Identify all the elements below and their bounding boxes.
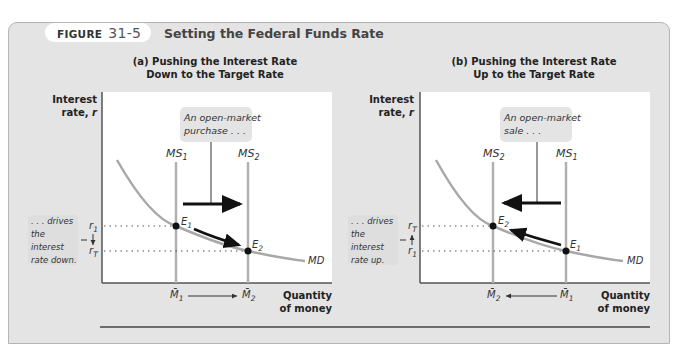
panel-a-graph: An open-market purchase . . . MS1 MS2 MD… xyxy=(28,92,332,314)
panel-b-e1-point xyxy=(563,248,570,255)
panel-a-callout-line1: An open-market xyxy=(183,112,262,123)
panel-a-note-line4: rate down. xyxy=(31,255,77,265)
panel-b-x-label-line2: of money xyxy=(598,303,651,314)
panel-b-r1-label: r1 xyxy=(408,245,417,259)
panel-a-y-label-line1: Interest xyxy=(52,94,97,105)
panel-a-e1-point xyxy=(173,223,180,230)
panel-b-note-line3: interest xyxy=(351,242,384,252)
panel-b-x-label-line1: Quantity xyxy=(601,290,650,301)
panel-b-note-line4: rate up. xyxy=(351,255,384,265)
panel-b-callout-line2: sale . . . xyxy=(504,125,541,136)
panel-a-x-label-line1: Quantity xyxy=(283,290,332,301)
panel-a-md-label: MD xyxy=(308,255,325,266)
panel-b-note-line2: the xyxy=(351,229,365,239)
panel-b-m1-label: M̄1 xyxy=(560,288,573,303)
panel-b-graph: An open-market sale . . . MS2 MS1 MD E2 … xyxy=(348,92,650,314)
panel-a-rt-label: rT xyxy=(89,245,99,259)
panel-b-m2-label: M̄2 xyxy=(487,288,501,303)
panel-a-r1-label: r1 xyxy=(89,220,98,234)
panel-a-callout-line2: purchase . . . xyxy=(183,125,246,136)
panel-b-y-label-line2: rate, r xyxy=(379,107,416,118)
panel-a-note-line3: interest xyxy=(31,242,64,252)
panel-b-e2-point xyxy=(490,223,497,230)
panel-b-note-line1: . . . drives xyxy=(351,216,394,226)
panel-b-rt-label: rT xyxy=(408,220,418,234)
panel-a-m2-label: M̄2 xyxy=(242,288,256,303)
panel-b-md-label: MD xyxy=(627,255,644,266)
panel-a-x-label-line2: of money xyxy=(280,303,333,314)
panel-b-callout-line1: An open-market xyxy=(503,112,582,123)
panel-a-note-line1: . . . drives xyxy=(31,216,74,226)
panel-a-m1-label: M̄1 xyxy=(170,288,183,303)
panel-b-y-label-line1: Interest xyxy=(369,94,414,105)
panel-a-y-label-line2: rate, r xyxy=(62,107,99,118)
panel-a-note-line2: the xyxy=(31,229,45,239)
panel-a-e2-point xyxy=(245,248,252,255)
